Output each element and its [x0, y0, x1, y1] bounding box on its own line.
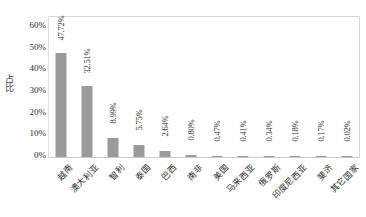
- bar-slot: 0.80%: [178, 16, 204, 157]
- bar[interactable]: [82, 86, 93, 157]
- y-tick-label-3: 30%: [16, 85, 46, 95]
- bar-slot: 0.47%: [204, 16, 230, 157]
- bar-value-label: 0.47%: [212, 121, 222, 142]
- y-tick-label-1: 10%: [16, 128, 46, 138]
- x-tick-label-1: 澳大利亚: [67, 161, 100, 194]
- bar[interactable]: [238, 156, 249, 157]
- x-tick-label-2: 智利: [106, 161, 127, 182]
- bars-layer: 47.72%32.51%8.99%5.75%2.64%0.80%0.47%0.4…: [48, 16, 360, 157]
- y-tick-label-5: 50%: [16, 42, 46, 52]
- y-tick-label-2: 20%: [16, 107, 46, 117]
- x-axis-baseline: [48, 157, 360, 158]
- bar-value-label: 0.34%: [264, 121, 274, 142]
- bar-slot: 5.75%: [126, 16, 152, 157]
- bar-slot: 0.34%: [256, 16, 282, 157]
- bar[interactable]: [342, 156, 353, 157]
- bar-slot: 8.99%: [100, 16, 126, 157]
- y-tick-label-4: 40%: [16, 63, 46, 73]
- bar-value-label: 0.80%: [186, 120, 196, 141]
- x-tick-label-3: 泰国: [132, 161, 153, 182]
- bar-slot: 0.18%: [282, 16, 308, 157]
- bar-value-label: 32.51%: [82, 49, 92, 74]
- x-tick-label-0: 越南: [54, 161, 75, 182]
- bar-slot: 0.02%: [334, 16, 360, 157]
- bar[interactable]: [186, 155, 197, 157]
- y-tick-label-0: 0%: [16, 150, 46, 160]
- bar-value-label: 0.18%: [290, 121, 300, 142]
- x-tick-label-6: 美国: [210, 161, 231, 182]
- bar-value-label: 47.72%: [56, 16, 66, 41]
- bar-value-label: 0.02%: [342, 121, 352, 142]
- x-tick-label-4: 巴西: [158, 161, 179, 182]
- bar-slot: 47.72%: [48, 16, 74, 157]
- bar-slot: 0.41%: [230, 16, 256, 157]
- bar[interactable]: [160, 151, 171, 157]
- bar-value-label: 2.64%: [160, 116, 170, 137]
- x-axis-tick-labels: 越南澳大利亚智利泰国巴西南非美国马来西亚俄罗斯印度尼西亚斐济其它国家: [48, 159, 360, 217]
- bar[interactable]: [290, 156, 301, 157]
- bar[interactable]: [264, 156, 275, 157]
- x-tick-label-10: 斐济: [314, 161, 335, 182]
- x-tick-label-7: 马来西亚: [223, 161, 256, 194]
- y-axis-title: 占比: [2, 75, 16, 93]
- bar-slot: 32.51%: [74, 16, 100, 157]
- bar[interactable]: [134, 145, 145, 157]
- bar-slot: 2.64%: [152, 16, 178, 157]
- x-tick-label-5: 南非: [184, 161, 205, 182]
- y-axis-title-char-2: 比: [2, 84, 16, 93]
- bar[interactable]: [212, 156, 223, 157]
- bar-value-label: 0.41%: [238, 121, 248, 142]
- bar[interactable]: [56, 53, 67, 157]
- bar-chart: 占比 0%10%20%30%40%50%60% 47.72%32.51%8.99…: [0, 0, 366, 217]
- y-axis-tick-labels: 0%10%20%30%40%50%60%: [16, 14, 46, 158]
- y-tick-label-6: 60%: [16, 20, 46, 30]
- bar-slot: 0.17%: [308, 16, 334, 157]
- bar[interactable]: [316, 156, 327, 157]
- bar-value-label: 5.75%: [134, 109, 144, 130]
- bar-value-label: 0.17%: [316, 121, 326, 142]
- bar-value-label: 8.99%: [108, 102, 118, 123]
- bar[interactable]: [108, 138, 119, 158]
